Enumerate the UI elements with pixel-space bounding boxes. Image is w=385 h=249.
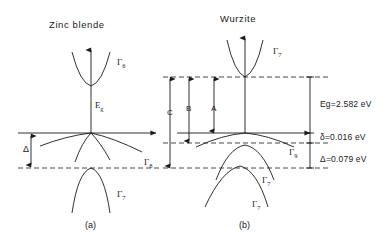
wz-crystal-field-splitting-value: δ=0.016 eV [320, 133, 366, 142]
wz-conduction-band-label: Γ7 [273, 47, 281, 58]
wz-valence-band-b-label: Γ7 [262, 176, 270, 187]
wz-valence-band-c-label: Γ7 [252, 200, 260, 211]
zinc-blende-caption: (a) [85, 221, 96, 230]
zb-split-off-band-curve [72, 168, 110, 213]
zb-conduction-band-label: Γ6 [117, 58, 125, 69]
wz-transition-label-b: B [186, 105, 192, 113]
wz-valence-band-a-label: Γ9 [289, 148, 297, 159]
wz-band-gap-value: Eg=2.582 eV [320, 100, 372, 109]
band-diagram-canvas [0, 0, 385, 249]
wz-spin-orbit-splitting-value: Δ=0.079 eV [320, 155, 367, 164]
zb-spin-orbit-splitting-label: Δ [23, 145, 29, 154]
zb-split-off-band-label: Γ7 [117, 190, 125, 201]
band-structure-figure: Zinc blende Γ6 Eg Γ8 Γ7 Δ (a) Wurzite Γ7… [0, 0, 385, 249]
zb-valence-lh-left-curve [75, 133, 91, 162]
panel-wurzite [163, 38, 330, 207]
panel-zinc-blende [18, 50, 160, 213]
zb-band-gap-label: Eg [95, 101, 103, 112]
wurzite-caption: (b) [239, 221, 250, 230]
wurzite-title: Wurzite [220, 14, 256, 24]
zb-valence-band-label: Γ8 [144, 158, 152, 169]
wz-transition-label-c: C [167, 109, 173, 117]
wz-transition-label-a: A [211, 105, 217, 113]
zinc-blende-title: Zinc blende [49, 20, 105, 30]
